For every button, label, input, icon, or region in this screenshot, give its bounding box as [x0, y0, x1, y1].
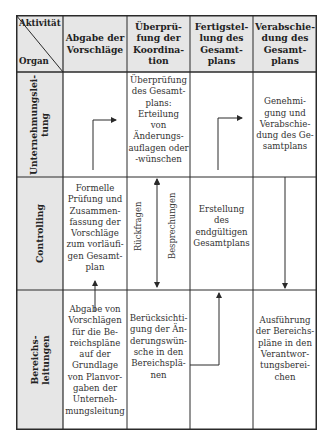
grid-lines-and-arrows	[16, 15, 317, 430]
process-matrix: Aktivität Organ Abgabe derVorschläge Übe…	[16, 15, 317, 430]
